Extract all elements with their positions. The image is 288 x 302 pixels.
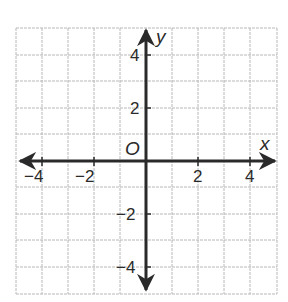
x-axis-label: x (259, 133, 271, 154)
y-tick-label: −4 (116, 258, 135, 277)
x-tick-label: −2 (75, 167, 94, 186)
y-tick-label: −2 (116, 205, 135, 224)
origin-label: O (125, 138, 140, 159)
coordinate-plane: −4 −2 2 4 4 2 −2 −4 O x y (0, 0, 288, 302)
y-tick-label: 2 (130, 99, 139, 118)
y-axis-label: y (154, 26, 167, 47)
y-tick-label: 4 (130, 46, 139, 65)
x-tick-label: 4 (245, 167, 254, 186)
x-tick-label: 2 (193, 167, 202, 186)
x-tick-label: −4 (24, 167, 43, 186)
